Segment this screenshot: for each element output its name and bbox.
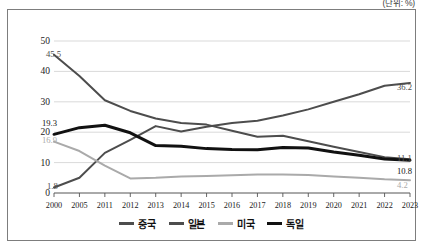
data-label: 1.8 <box>47 181 58 191</box>
legend-label: 일본 <box>188 216 205 231</box>
x-tick-label: 2023 <box>402 201 418 210</box>
x-tick-label: 2018 <box>275 201 291 210</box>
x-tick-label: 2000 <box>46 201 62 210</box>
y-tick-label: 10 <box>41 158 51 168</box>
x-tick-label: 2017 <box>249 201 265 210</box>
data-label: 45.5 <box>46 49 61 59</box>
plot-area: 01020304050 2000200520112012201320142015… <box>54 41 410 193</box>
x-tick-label: 2013 <box>148 201 164 210</box>
x-tick-label: 2020 <box>326 201 342 210</box>
data-label: 36.2 <box>397 82 412 92</box>
legend-label: 중국 <box>138 216 155 231</box>
legend-item-중국[interactable]: 중국 <box>119 216 155 231</box>
x-tick-label: 2014 <box>173 201 189 210</box>
legend-swatch-icon <box>218 222 233 224</box>
y-tick-label: 30 <box>41 97 51 107</box>
data-label: 4.2 <box>397 180 408 190</box>
x-tick-label: 2011 <box>97 201 113 210</box>
series-line-미국 <box>54 142 410 181</box>
data-label: 16.9 <box>42 135 57 145</box>
x-tick-label: 2015 <box>198 201 214 210</box>
x-tick-label: 2012 <box>122 201 138 210</box>
legend-item-일본[interactable]: 일본 <box>169 216 205 231</box>
x-tick-label: 2022 <box>376 201 392 210</box>
unit-note: (단위: %) <box>382 0 415 8</box>
data-label: 11.1 <box>397 153 412 163</box>
legend-label: 미국 <box>237 216 254 231</box>
legend-item-미국[interactable]: 미국 <box>218 216 254 231</box>
chart-legend: 중국일본미국독일 <box>8 216 415 231</box>
legend-swatch-icon <box>119 222 134 225</box>
line-chart-svg <box>54 41 410 193</box>
series-line-중국 <box>54 83 410 188</box>
x-tick-label: 2016 <box>224 201 240 210</box>
chart-frame: 01020304050 2000200520112012201320142015… <box>7 9 416 241</box>
legend-item-독일[interactable]: 독일 <box>267 216 303 231</box>
y-tick-label: 50 <box>41 36 51 46</box>
legend-swatch-icon <box>267 222 282 225</box>
x-tick-label: 2005 <box>71 201 87 210</box>
legend-label: 독일 <box>286 216 303 231</box>
series-line-일본 <box>54 55 410 160</box>
chart-screenshot: (단위: %) 01020304050 20002005201120122013… <box>0 0 423 249</box>
x-tick-label: 2021 <box>351 201 367 210</box>
y-tick-label: 40 <box>41 66 51 76</box>
legend-swatch-icon <box>169 222 184 225</box>
data-label: 19.3 <box>42 118 57 128</box>
x-tick-label: 2019 <box>300 201 316 210</box>
data-label: 10.8 <box>397 166 412 176</box>
